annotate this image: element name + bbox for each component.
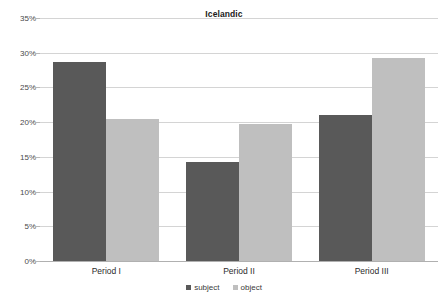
y-axis-tick-mark [35,18,40,19]
y-axis-tick-mark [35,157,40,158]
y-axis-tick-label: 15% [6,152,36,161]
y-axis-tick-mark [35,53,40,54]
legend-swatch-icon [186,285,191,290]
y-axis-tick-label: 20% [6,118,36,127]
y-axis-tick-mark [35,226,40,227]
y-axis-tick-label: 25% [6,83,36,92]
y-axis-tick-label: 10% [6,187,36,196]
x-axis-label: Period II [173,266,306,276]
bar-group [53,18,159,261]
bar-object-1[interactable] [106,119,159,261]
bar-subject-3[interactable] [319,115,372,261]
gridline [40,261,438,262]
legend-item-subject[interactable]: subject [186,283,219,292]
chart-container: Icelandic 0%5%10%15%20%25%30%35% Period … [0,0,448,302]
x-axis-label: Period I [40,266,173,276]
y-axis-tick-mark [35,122,40,123]
y-axis-tick-mark [35,261,40,262]
bar-object-3[interactable] [372,58,425,261]
bar-subject-2[interactable] [186,162,239,261]
bar-subject-1[interactable] [53,62,106,261]
y-axis-tick-label: 30% [6,48,36,57]
bar-group [186,18,292,261]
bar-group [319,18,425,261]
legend-swatch-icon [233,285,238,290]
y-axis-tick-mark [35,192,40,193]
y-axis-tick-label: 0% [6,257,36,266]
y-axis-tick-label: 5% [6,222,36,231]
y-axis-tick-mark [35,87,40,88]
plot-area [40,18,438,261]
chart-legend: subjectobject [0,283,448,292]
legend-label: subject [194,283,219,292]
legend-label: object [241,283,262,292]
y-axis-tick-label: 35% [6,14,36,23]
legend-item-object[interactable]: object [233,283,262,292]
x-axis-label: Period III [305,266,438,276]
bar-object-2[interactable] [239,124,292,261]
